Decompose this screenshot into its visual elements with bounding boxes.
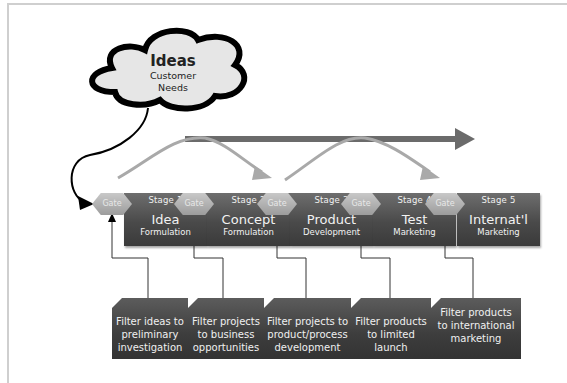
filter-text-line: to business <box>188 328 264 341</box>
filter-text-line: investigation <box>112 341 188 354</box>
filter-text-line: Filter projects <box>188 315 264 328</box>
stage-subtitle: Marketing <box>457 227 540 238</box>
filter-box-3: Filter projects to product/process devel… <box>264 298 351 359</box>
stage-subtitle: Development <box>290 227 373 238</box>
cloud-subtitle: Customer Needs <box>134 70 212 94</box>
filter-text-line: to international <box>431 319 521 332</box>
filter-box-1: Filter ideas to preliminary investigatio… <box>112 298 188 359</box>
filter-text-line: Filter projects to <box>264 315 351 328</box>
stage-subtitle: Formulation <box>124 227 207 238</box>
filter-text-line: Filter ideas to <box>112 315 188 328</box>
filter-text-line: development <box>264 341 351 354</box>
cloud-subtitle-line1: Customer <box>134 70 212 82</box>
filter-text-line: marketing <box>431 332 521 345</box>
stage-title: Internat'l <box>457 212 540 227</box>
stage-5-box: Stage 5 Internat'l Marketing <box>457 193 540 246</box>
filter-text-line: product/process <box>264 328 351 341</box>
filter-text-line: Filter products <box>431 306 521 319</box>
filter-text-line: launch <box>351 341 431 354</box>
filter-text-line: opportunities <box>188 341 264 354</box>
stage-subtitle: Marketing <box>373 227 456 238</box>
filter-text-line: to limited <box>351 328 431 341</box>
filter-text-line: Filter products <box>351 315 431 328</box>
cloud-to-gate-arrow <box>72 108 148 202</box>
curved-arrows <box>118 138 430 180</box>
stage-subtitle: Formulation <box>207 227 290 238</box>
filter-box-5: Filter products to international marketi… <box>431 298 521 359</box>
filter-box-2: Filter projects to business opportunitie… <box>188 298 264 359</box>
cloud-subtitle-line2: Needs <box>134 82 212 94</box>
filter-box-4: Filter products to limited launch <box>351 298 431 359</box>
filter-text-line: preliminary <box>112 328 188 341</box>
stage-label: Stage 5 <box>457 195 540 205</box>
main-flow-arrow <box>185 128 475 150</box>
cloud-title: Ideas <box>138 52 208 70</box>
